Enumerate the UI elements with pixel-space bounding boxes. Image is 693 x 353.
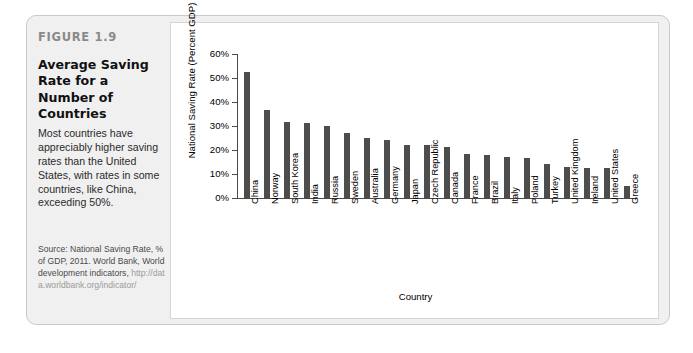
x-axis-tick-label: Germany: [390, 166, 400, 204]
x-axis-tick-label: United Kingdom: [570, 139, 580, 204]
y-axis-tick-mark: [232, 198, 237, 199]
y-axis-tick-label: 0%: [215, 192, 229, 203]
x-axis-tick-label: Italy: [510, 187, 520, 204]
figure-description: Most countries have appreciably higher s…: [38, 127, 162, 210]
x-axis-tick-label: Poland: [530, 175, 540, 204]
x-axis-tick-label: Greece: [630, 174, 640, 204]
x-axis-tick-label: India: [310, 184, 320, 204]
y-axis-tick-label: 10%: [210, 168, 229, 179]
x-axis-tick-label: Norway: [270, 173, 280, 204]
figure-source-note: Source: National Saving Rate, % of GDP, …: [38, 244, 166, 291]
x-axis-tick-label: Brazil: [490, 181, 500, 204]
x-axis-tick-label: Czech Republic: [430, 140, 440, 204]
chart-panel: National Saving Rate (Percent GDP) 0%10%…: [170, 22, 659, 319]
y-axis-tick-label: 40%: [210, 96, 229, 107]
figure-container: FIGURE 1.9 Average Saving Rate for a Num…: [0, 0, 693, 353]
y-axis-line: [237, 54, 238, 199]
y-axis-tick-mark: [232, 150, 237, 151]
plot-area: 0%10%20%30%40%50%60%ChinaNorwaySouth Kor…: [237, 54, 637, 198]
figure-caption-column: FIGURE 1.9 Average Saving Rate for a Num…: [32, 22, 168, 318]
x-axis-tick-label: China: [250, 180, 260, 204]
x-axis-tick-label: Sweden: [350, 171, 360, 204]
x-axis-tick-label: Ireland: [590, 176, 600, 204]
y-axis-tick-label: 60%: [210, 48, 229, 59]
figure-number-label: FIGURE 1.9: [38, 30, 162, 44]
x-axis-tick-label: South Korea: [290, 153, 300, 204]
y-axis-tick-mark: [232, 78, 237, 79]
y-axis-tick-label: 30%: [210, 120, 229, 131]
x-axis-tick-label: Turkey: [550, 176, 560, 204]
x-axis-tick-label: France: [470, 175, 480, 204]
figure-title: Average Saving Rate for a Number of Coun…: [38, 57, 162, 122]
x-axis-tick-label: Japan: [410, 179, 420, 204]
x-axis-tick-label: United States: [610, 149, 620, 204]
y-axis-tick-mark: [232, 54, 237, 55]
x-axis-title: Country: [171, 291, 660, 302]
y-axis-title: National Saving Rate (Percent GDP): [186, 1, 197, 161]
x-axis-tick-label: Canada: [450, 172, 460, 204]
y-axis-tick-mark: [232, 126, 237, 127]
y-axis-tick-label: 50%: [210, 72, 229, 83]
y-axis-tick-mark: [232, 174, 237, 175]
y-axis-tick-mark: [232, 102, 237, 103]
y-axis-tick-label: 20%: [210, 144, 229, 155]
x-axis-tick-label: Russia: [330, 176, 340, 204]
x-axis-tick-label: Australia: [370, 168, 380, 204]
